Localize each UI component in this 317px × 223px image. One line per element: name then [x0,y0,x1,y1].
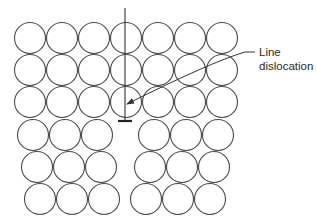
atom-circle [207,55,238,86]
atom-circle [47,55,78,86]
atom-circle [195,184,226,215]
atom-lattice [15,23,238,215]
atom-circle [57,184,88,215]
atom-circle [25,184,56,215]
dislocation-diagram [0,0,317,223]
atom-circle [163,184,194,215]
atom-circle [82,120,113,151]
atom-circle [15,87,46,118]
atom-circle [79,55,110,86]
atom-circle [47,87,78,118]
atom-circle [79,23,110,54]
atom-circle [111,23,142,54]
atom-circle [18,120,49,151]
callout-label: Line dislocation [259,45,313,73]
atom-circle [54,152,85,183]
atom-circle [207,87,238,118]
atom-circle [203,120,234,151]
atom-circle [207,23,238,54]
atom-circle [171,120,202,151]
atom-circle [135,152,166,183]
atom-circle [50,120,81,151]
atom-circle [89,184,120,215]
atom-circle [143,23,174,54]
atom-circle [15,55,46,86]
callout-label-line2: dislocation [259,59,313,73]
atom-circle [111,55,142,86]
atom-circle [15,23,46,54]
atom-circle [199,152,230,183]
atom-circle [139,120,170,151]
atom-circle [167,152,198,183]
atom-circle [143,87,174,118]
atom-circle [47,23,78,54]
atom-circle [131,184,162,215]
atom-circle [79,87,110,118]
atom-circle [111,87,142,118]
atom-circle [175,23,206,54]
atom-circle [175,87,206,118]
atom-circle [86,152,117,183]
callout-label-line1: Line [259,45,313,59]
atom-circle [175,55,206,86]
atom-circle [22,152,53,183]
atom-circle [143,55,174,86]
